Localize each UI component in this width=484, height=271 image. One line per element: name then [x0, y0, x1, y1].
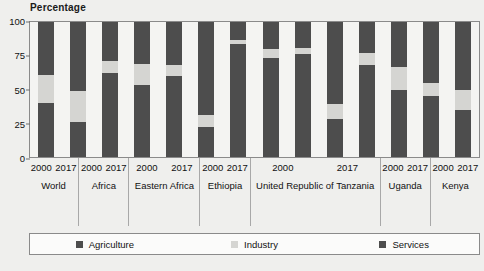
y-axis-tick-label: 100	[0, 16, 25, 27]
bar-segment-agriculture	[198, 127, 214, 157]
stacked-bar	[38, 22, 54, 157]
x-axis-year-label: 2017	[407, 162, 428, 173]
stacked-bar	[295, 22, 311, 157]
bar-segment-agriculture	[263, 58, 279, 157]
x-axis-year-label: 2017	[457, 162, 478, 173]
bar-segment-agriculture	[359, 65, 375, 157]
x-axis-year-label: 2000	[272, 162, 293, 173]
legend-swatch-icon	[379, 241, 386, 248]
bar-segment-industry	[134, 64, 150, 86]
x-axis-group: 20002017World	[29, 158, 79, 226]
stacked-bar	[198, 22, 214, 157]
stacked-bar	[359, 22, 375, 157]
legend-item-services[interactable]: Services	[329, 239, 479, 250]
x-axis-group: 20002017United Republic of Tanzania	[251, 158, 381, 226]
y-axis-tick-mark	[26, 21, 30, 22]
bar-segment-services	[295, 22, 311, 48]
bar-segment-industry	[455, 90, 471, 110]
bar-segment-industry	[327, 104, 343, 119]
bar-segment-agriculture	[391, 90, 407, 158]
stacked-bar	[230, 22, 246, 157]
bar-segment-industry	[263, 49, 279, 58]
bar-segment-services	[359, 22, 375, 53]
bar-segment-agriculture	[423, 96, 439, 157]
x-axis-group: 20002017Africa	[79, 158, 129, 226]
legend-swatch-icon	[231, 241, 238, 248]
x-axis-year-row: 20002017	[200, 162, 249, 173]
x-axis-year-row: 20002017	[79, 162, 128, 173]
y-axis-tick-mark	[26, 124, 30, 125]
x-axis-year-label: 2017	[227, 162, 248, 173]
chart-root: Percentage 1007550250 20002017World20002…	[0, 0, 484, 271]
stacked-bar	[166, 22, 182, 157]
chart-legend: AgricultureIndustryServices	[29, 233, 480, 255]
legend-item-industry[interactable]: Industry	[180, 239, 330, 250]
bar-segment-agriculture	[327, 119, 343, 157]
bar-segment-industry	[359, 53, 375, 65]
x-axis-group-label: United Republic of Tanzania	[254, 180, 376, 192]
x-axis-year-row: 20002017	[129, 162, 199, 173]
x-axis-year-label: 2000	[433, 162, 454, 173]
bar-segment-services	[391, 22, 407, 67]
legend-item-agriculture[interactable]: Agriculture	[30, 239, 180, 250]
x-axis-year-label: 2000	[136, 162, 157, 173]
bar-segment-agriculture	[166, 76, 182, 157]
stacked-bar	[134, 22, 150, 157]
y-axis-title: Percentage	[30, 2, 86, 13]
x-axis-year-label: 2000	[202, 162, 223, 173]
x-axis-group-label: Uganda	[387, 180, 424, 192]
bar-segment-services	[134, 22, 150, 64]
y-axis-tick-mark	[26, 90, 30, 91]
bar-segment-services	[455, 22, 471, 90]
stacked-bar	[70, 22, 86, 157]
x-axis-group-label: Eastern Africa	[133, 180, 196, 192]
stacked-bar	[423, 22, 439, 157]
x-axis-year-label: 2017	[337, 162, 358, 173]
stacked-bar	[263, 22, 279, 157]
bar-segment-agriculture	[38, 103, 54, 157]
x-axis-year-row: 20002017	[29, 162, 78, 173]
x-axis-group: 20002017Eastern Africa	[129, 158, 200, 226]
bar-segment-services	[263, 22, 279, 49]
bar-segment-industry	[166, 65, 182, 76]
bar-segment-industry	[391, 67, 407, 90]
x-axis-year-label: 2000	[31, 162, 52, 173]
y-axis-tick-label: 25	[0, 118, 25, 129]
x-axis-year-label: 2000	[382, 162, 403, 173]
bar-segment-agriculture	[102, 73, 118, 157]
bar-segment-industry	[423, 83, 439, 97]
bar-segment-services	[327, 22, 343, 104]
x-axis-group-label: World	[39, 180, 68, 192]
bar-segment-services	[230, 22, 246, 40]
x-axis-group: 20002017Kenya	[431, 158, 480, 226]
x-axis-group: 20002017Uganda	[381, 158, 431, 226]
legend-label: Agriculture	[89, 239, 134, 250]
x-axis-year-label: 2017	[55, 162, 76, 173]
x-axis-group-label: Africa	[90, 180, 118, 192]
bar-segment-services	[423, 22, 439, 83]
stacked-bar	[391, 22, 407, 157]
y-axis-tick-label: 0	[0, 153, 25, 164]
x-axis-year-row: 20002017	[431, 162, 480, 173]
legend-label: Services	[392, 239, 428, 250]
y-axis-tick-mark	[26, 55, 30, 56]
bar-segment-industry	[70, 91, 86, 122]
x-axis-group-label: Ethiopia	[206, 180, 244, 192]
bar-segment-agriculture	[295, 54, 311, 157]
bar-segment-services	[198, 22, 214, 115]
legend-label: Industry	[244, 239, 278, 250]
bar-segment-industry	[198, 115, 214, 127]
x-axis-group-label: Kenya	[440, 180, 471, 192]
x-axis-group: 20002017Ethiopia	[200, 158, 250, 226]
x-axis-year-row: 20002017	[381, 162, 430, 173]
stacked-bar	[102, 22, 118, 157]
bar-segment-services	[102, 22, 118, 61]
bar-segment-industry	[102, 61, 118, 73]
y-axis-tick-label: 50	[0, 84, 25, 95]
x-axis-category-table: 20002017World20002017Africa20002017Easte…	[29, 158, 480, 226]
bar-segment-services	[166, 22, 182, 65]
bar-segment-agriculture	[134, 85, 150, 157]
y-axis-tick-label: 75	[0, 50, 25, 61]
bar-segment-agriculture	[230, 44, 246, 157]
bar-segment-industry	[38, 75, 54, 103]
